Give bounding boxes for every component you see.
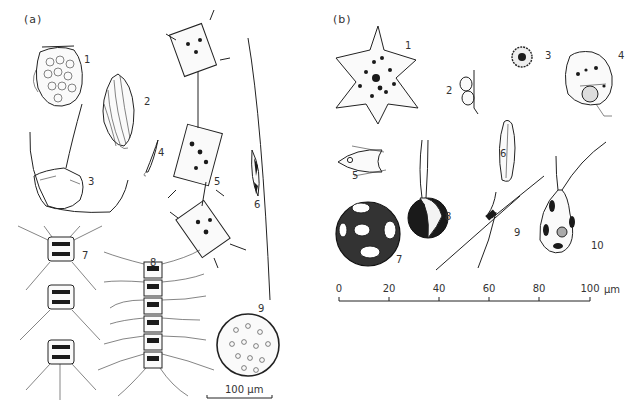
panel-b-scale-bar — [339, 297, 590, 301]
scale-tick-20: 20 — [383, 283, 396, 294]
panel-a: (a) — [0, 0, 300, 414]
specimen-a4-drawing — [144, 140, 158, 176]
specimen-a8-label: 8 — [150, 257, 156, 268]
specimen-a2-label: 2 — [144, 96, 150, 107]
panel-b: (b) — [300, 0, 629, 414]
specimen-a4-label: 4 — [158, 147, 164, 158]
specimen-b7-label: 7 — [396, 254, 402, 265]
scale-tick-60: 60 — [483, 283, 496, 294]
specimen-b1-label: 1 — [405, 40, 411, 51]
specimen-b8-drawing — [408, 140, 448, 238]
specimen-b5-label: 5 — [352, 170, 358, 181]
specimen-a9-drawing — [217, 314, 279, 376]
specimen-a6-drawing — [248, 38, 270, 300]
scale-tick-100: 100 — [580, 283, 599, 294]
specimen-b9-label: 9 — [514, 227, 520, 238]
specimen-b4-drawing — [565, 52, 612, 117]
specimen-a5-label: 5 — [214, 176, 220, 187]
scale-tick-40: 40 — [433, 283, 446, 294]
specimen-b9-drawing — [436, 176, 544, 270]
panel-b-drawings — [300, 0, 629, 414]
specimen-a8-drawing — [98, 250, 214, 396]
scale-tick-0: 0 — [336, 283, 342, 294]
specimen-b10-label: 10 — [591, 240, 604, 251]
specimen-b3-label: 3 — [545, 50, 551, 61]
specimen-a9-label: 9 — [258, 303, 264, 314]
specimen-b5-drawing — [338, 146, 386, 176]
specimen-a1-label: 1 — [84, 54, 90, 65]
specimen-b3-drawing — [512, 47, 532, 67]
specimen-b8-label: 8 — [445, 211, 451, 222]
specimen-b2-label: 2 — [446, 85, 452, 96]
specimen-b7-drawing — [336, 202, 400, 266]
specimen-b4-label: 4 — [618, 50, 624, 61]
specimen-a3-label: 3 — [88, 176, 94, 187]
specimen-b10-drawing — [540, 142, 606, 253]
specimen-a7-label: 7 — [82, 250, 88, 261]
specimen-a6-label: 6 — [254, 199, 260, 210]
scale-tick-80: 80 — [533, 283, 546, 294]
specimen-b6-label: 6 — [500, 148, 506, 159]
specimen-a1-drawing — [33, 46, 82, 106]
specimen-a5-drawing — [166, 10, 246, 268]
scale-unit: µm — [604, 284, 620, 295]
specimen-a2-drawing — [103, 74, 134, 149]
specimen-a7-drawing — [18, 226, 102, 400]
panel-a-scale-label: 100 µm — [225, 384, 263, 395]
specimen-b2-drawing — [460, 70, 478, 114]
